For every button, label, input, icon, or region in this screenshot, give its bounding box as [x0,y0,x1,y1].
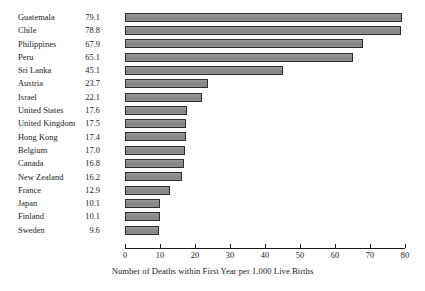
category-name: Sweden [18,224,45,237]
bar-row [125,51,407,64]
category-name: Chile [18,24,36,37]
category-row: Israel22.1 [0,91,118,104]
category-value: 9.6 [90,224,100,237]
bar [125,26,401,35]
category-value: 17.0 [85,144,100,157]
bar [125,132,186,141]
category-value: 12.9 [85,184,100,197]
bar-row [125,157,407,170]
x-axis-caption: Number of Deaths within First Year per 1… [0,266,425,276]
category-value: 10.1 [85,197,100,210]
bar [125,199,160,208]
category-name: France [18,184,41,197]
bar [125,106,187,115]
category-name: Belgium [18,144,47,157]
x-axis-tick-label: 80 [401,251,409,260]
category-value: 17.6 [85,104,100,117]
bar-row [125,38,407,51]
category-row: Peru65.1 [0,51,118,64]
bar [125,186,170,195]
category-row: Sweden9.6 [0,224,118,237]
bar-row [125,11,407,24]
category-row: Finland10.1 [0,210,118,223]
bar [125,39,363,48]
bar-row [125,91,407,104]
bar [125,212,160,221]
x-axis-tick-label: 40 [261,251,269,260]
bar [125,146,185,155]
category-value: 67.9 [85,38,100,51]
category-name: Finland [18,210,44,223]
category-value: 79.1 [85,11,100,24]
category-name: Canada [18,157,43,170]
bar [125,13,402,22]
category-row: Japan10.1 [0,197,118,210]
category-name: Philippines [18,38,56,51]
category-row: Hong Kong17.4 [0,131,118,144]
bar-row [125,24,407,37]
bar-row [125,144,407,157]
bar [125,66,283,75]
bar-plot-area [125,11,407,243]
category-name: Hong Kong [18,131,58,144]
category-name: Peru [18,51,34,64]
bar-row [125,197,407,210]
x-axis-tick-label: 30 [226,251,234,260]
x-axis-tick [195,244,196,248]
category-row: Belgium17.0 [0,144,118,157]
category-row: Philippines67.9 [0,38,118,51]
bar [125,93,202,102]
x-axis-tick [335,244,336,248]
bar-row [125,184,407,197]
category-name: New Zealand [18,171,63,184]
bar-row [125,77,407,90]
category-value: 17.4 [85,131,100,144]
category-row: Canada16.8 [0,157,118,170]
category-value: 23.7 [85,77,100,90]
category-row: Sri Lanka45.1 [0,64,118,77]
x-axis-tick [370,244,371,248]
category-name: United States [18,104,64,117]
x-axis-tick [405,244,406,248]
category-value: 65.1 [85,51,100,64]
x-axis-tick-label: 70 [366,251,374,260]
category-row: United Kingdom17.5 [0,117,118,130]
bar-row [125,117,407,130]
x-axis-tick-label: 10 [156,251,164,260]
category-value: 45.1 [85,64,100,77]
bar-row [125,64,407,77]
bar-row [125,131,407,144]
bar [125,53,353,62]
category-name: Guatemala [18,11,55,24]
category-row: Austria23.7 [0,77,118,90]
x-axis-tick-label: 20 [191,251,199,260]
category-row: Chile78.8 [0,24,118,37]
category-value: 17.5 [85,117,100,130]
category-row: France12.9 [0,184,118,197]
category-value: 22.1 [85,91,100,104]
bar-row [125,224,407,237]
category-row: New Zealand16.2 [0,171,118,184]
category-name: Sri Lanka [18,64,51,77]
bar [125,79,208,88]
category-row: United States17.6 [0,104,118,117]
bar [125,226,159,235]
category-value: 10.1 [85,210,100,223]
x-axis-tick [160,244,161,248]
x-axis-tick [230,244,231,248]
bar-row [125,104,407,117]
bar-row [125,171,407,184]
chart-page: Guatemala79.1Chile78.8Philippines67.9Per… [0,0,425,291]
category-row: Guatemala79.1 [0,11,118,24]
category-value: 78.8 [85,24,100,37]
bar-row [125,210,407,223]
x-axis-tick-label: 50 [296,251,304,260]
x-axis-tick [125,244,126,248]
x-axis-tick [300,244,301,248]
x-axis-tick-label: 60 [331,251,339,260]
category-name: Israel [18,91,37,104]
category-name: Austria [18,77,43,90]
category-value: 16.8 [85,157,100,170]
bar [125,119,186,128]
x-axis-tick [265,244,266,248]
